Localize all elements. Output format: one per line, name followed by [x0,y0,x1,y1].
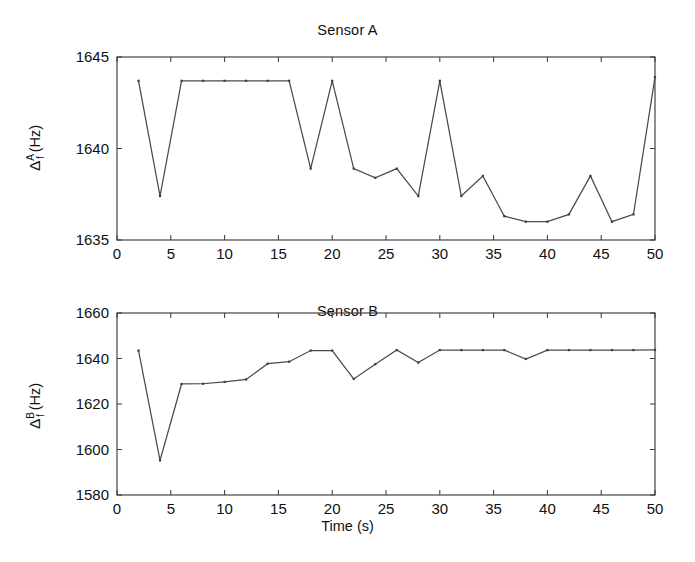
y-tick-label: 1640 [76,350,109,367]
x-axis-label: Time (s) [0,518,695,534]
data-point-marker [202,80,204,82]
x-tick-label: 5 [167,245,175,262]
y-tick-label: 1640 [76,140,109,157]
x-tick-label: 10 [216,500,233,517]
x-tick-label: 0 [113,245,121,262]
data-point-marker [224,80,226,82]
data-point-marker [159,195,161,197]
x-tick-label: 35 [485,500,502,517]
x-tick-label: 50 [647,500,664,517]
data-point-marker [267,80,269,82]
x-tick-label: 30 [431,245,448,262]
data-point-marker [159,459,161,461]
x-tick-label: 35 [485,245,502,262]
data-point-marker [417,195,419,197]
x-tick-label: 50 [647,245,664,262]
x-tick-label: 45 [593,245,610,262]
x-tick-label: 15 [270,500,287,517]
axis-box [117,313,655,495]
data-point-marker [224,381,226,383]
data-point-marker [137,80,139,82]
data-point-marker [288,361,290,363]
y-tick-label: 1645 [76,48,109,65]
data-point-marker [654,349,656,351]
data-series-line [139,77,655,222]
data-point-marker [417,361,419,363]
data-point-marker [396,168,398,170]
data-point-marker [525,221,527,223]
y-tick-label: 1600 [76,441,109,458]
chart-panel-sensor-a: Sensor A ΔAf (Hz) 0510152025303540455016… [0,0,695,281]
x-tick-label: 20 [324,245,341,262]
data-point-marker [611,349,613,351]
data-point-marker [460,195,462,197]
figure-canvas: Sensor A ΔAf (Hz) 0510152025303540455016… [0,0,695,562]
data-point-marker [331,349,333,351]
data-point-marker [310,349,312,351]
data-point-marker [568,349,570,351]
data-point-marker [503,215,505,217]
data-point-marker [460,349,462,351]
data-point-marker [546,221,548,223]
axis-box [117,57,655,240]
data-point-marker [654,76,656,78]
data-point-marker [180,80,182,82]
data-point-marker [310,168,312,170]
data-point-marker [611,221,613,223]
data-point-marker [267,363,269,365]
x-tick-label: 40 [539,500,556,517]
data-point-marker [288,80,290,82]
data-point-marker [546,349,548,351]
y-tick-label: 1580 [76,486,109,503]
x-tick-label: 40 [539,245,556,262]
x-tick-label: 10 [216,245,233,262]
data-point-marker [353,168,355,170]
y-tick-label: 1620 [76,395,109,412]
data-point-marker [632,349,634,351]
x-tick-label: 5 [167,500,175,517]
data-point-marker [374,177,376,179]
x-tick-label: 20 [324,500,341,517]
data-point-marker [482,175,484,177]
data-point-marker [632,213,634,215]
data-point-marker [589,175,591,177]
y-tick-label: 1635 [76,231,109,248]
data-point-marker [245,378,247,380]
data-point-marker [589,349,591,351]
data-series-line [139,350,655,461]
data-point-marker [202,383,204,385]
x-tick-label: 25 [378,245,395,262]
data-point-marker [137,349,139,351]
x-tick-label: 30 [431,500,448,517]
x-tick-label: 15 [270,245,287,262]
plot-area-sensor-a: 05101520253035404550163516401645 [0,0,695,281]
data-point-marker [503,349,505,351]
data-point-marker [525,358,527,360]
data-point-marker [568,213,570,215]
data-point-marker [331,80,333,82]
data-point-marker [353,378,355,380]
data-point-marker [374,363,376,365]
data-point-marker [245,80,247,82]
chart-panel-sensor-b: Sensor B ΔBf (Hz) 0510152025303540455015… [0,281,695,562]
x-tick-label: 0 [113,500,121,517]
y-tick-label: 1660 [76,304,109,321]
x-tick-label: 45 [593,500,610,517]
data-point-marker [482,349,484,351]
data-point-marker [180,383,182,385]
data-point-marker [439,349,441,351]
data-point-marker [439,80,441,82]
data-point-marker [396,349,398,351]
x-tick-label: 25 [378,500,395,517]
